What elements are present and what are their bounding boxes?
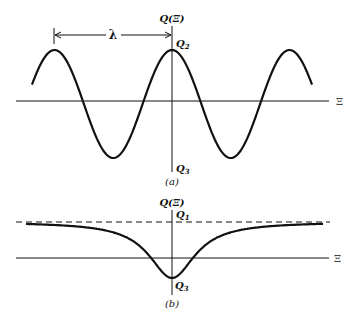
panel-a-min-label: Q3 <box>176 163 190 176</box>
panel-b-x-axis-label: Ξ <box>334 253 341 264</box>
wavelength-label: λ <box>109 28 117 42</box>
figure: λ Q(Ξ) Ξ Q2 Q3 (a) Q(Ξ) Ξ Q1 Q3 (b) <box>0 0 353 321</box>
panel-a-caption: (a) <box>165 176 179 187</box>
panel-b-y-axis-label: Q(Ξ) <box>159 197 184 208</box>
panel-b-asymptote-label: Q1 <box>176 209 190 222</box>
panel-b-dip-curve <box>26 224 323 278</box>
panel-a: λ Q(Ξ) Ξ Q2 Q3 (a) <box>16 13 343 187</box>
panel-b-min-label: Q3 <box>175 280 189 293</box>
panel-a-x-axis-label: Ξ <box>336 96 343 107</box>
panel-b: Q(Ξ) Ξ Q1 Q3 (b) <box>16 197 341 309</box>
panel-a-y-axis-label: Q(Ξ) <box>159 13 184 24</box>
panel-a-max-label: Q2 <box>176 38 190 51</box>
panel-b-caption: (b) <box>165 298 179 309</box>
